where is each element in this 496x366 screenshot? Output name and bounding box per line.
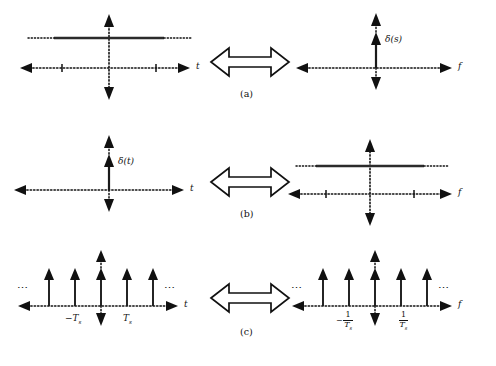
impulse-arrowhead xyxy=(148,268,158,280)
axis-label-time: t xyxy=(196,62,200,71)
impulse-arrowhead xyxy=(344,268,354,280)
panel-b-time-domain: δ(t) t xyxy=(6,122,216,244)
impulse-arrowhead xyxy=(70,268,80,280)
axis-arrow-right xyxy=(166,301,178,311)
panel-c-frequency-domain: ⋯ ⋯ − 1 Ts 1 Ts f xyxy=(280,244,490,366)
ellipsis-left: ⋯ xyxy=(17,282,29,295)
figure-row-b: δ(t) t (b) f xyxy=(0,122,496,244)
fraction-denominator-sub: s xyxy=(405,325,408,331)
tick-label-negative-Ts: −Ts xyxy=(65,314,81,325)
axis-label-frequency: f xyxy=(458,188,461,197)
ellipsis-right: ⋯ xyxy=(164,282,176,295)
panel-tag-b: (b) xyxy=(240,208,254,219)
axis-arrow-right xyxy=(440,63,452,73)
axis-arrow-up xyxy=(365,139,375,152)
axis-label-frequency: f xyxy=(458,300,461,309)
axis-label-time: t xyxy=(184,300,188,309)
axis-arrow-down xyxy=(96,313,106,326)
fraction-stack: 1 Ts xyxy=(399,311,409,331)
plot-b-time xyxy=(6,122,216,244)
fraction-stack: 1 Ts xyxy=(343,311,353,331)
tick-label-negative-inverse-Ts: − 1 Ts xyxy=(336,311,353,331)
axis-arrow-left xyxy=(20,63,32,73)
panel-tag-a: (a) xyxy=(240,88,253,99)
fraction-numerator: 1 xyxy=(345,311,352,319)
tick-label-positive-Ts: Ts xyxy=(123,314,132,325)
figure-row-c: ⋯ ⋯ −Ts Ts t (c) xyxy=(0,244,496,366)
panel-c-time-domain: ⋯ ⋯ −Ts Ts t xyxy=(6,244,216,366)
axis-label-time: t xyxy=(190,184,194,193)
axis-arrow-left xyxy=(18,301,30,311)
tick-label-negative-sub: s xyxy=(79,319,82,325)
impulse-label-delta-s: δ(s) xyxy=(385,35,402,44)
axis-arrow-up xyxy=(96,250,106,262)
axis-arrow-up xyxy=(370,250,380,262)
impulse-arrowhead xyxy=(318,268,328,280)
impulse-arrowhead xyxy=(371,32,381,45)
ellipsis-right: ⋯ xyxy=(438,282,450,295)
axis-arrow-right xyxy=(172,185,184,195)
ellipsis-left: ⋯ xyxy=(291,282,303,295)
tick-label-positive-inverse-Ts: 1 Ts xyxy=(398,311,408,331)
impulse-arrowhead-center xyxy=(96,268,106,280)
impulse-arrowhead xyxy=(122,268,132,280)
fraction-denominator-sub: s xyxy=(350,325,353,331)
impulse-arrowhead xyxy=(422,268,432,280)
axis-arrow-up xyxy=(104,14,114,27)
axis-arrow-down xyxy=(104,87,114,100)
axis-arrow-left xyxy=(296,63,308,73)
axis-arrow-down xyxy=(365,213,375,226)
axis-label-frequency: f xyxy=(458,62,461,71)
axis-arrow-down xyxy=(371,77,381,90)
tick-label-positive-sub: s xyxy=(129,319,132,325)
axis-arrow-left xyxy=(292,301,304,311)
panel-b-frequency-domain: f xyxy=(280,122,490,244)
panel-a-time-domain: t xyxy=(6,0,216,122)
transform-pair-figure: t (a) δ(s) xyxy=(0,0,496,366)
impulse-arrowhead xyxy=(396,268,406,280)
axis-arrow-down xyxy=(104,199,114,212)
tick-label-negative-text: −T xyxy=(65,313,79,323)
axis-arrow-up xyxy=(371,13,381,26)
axis-arrow-right xyxy=(178,63,190,73)
fraction-sign: − xyxy=(336,317,343,325)
plot-a-time xyxy=(6,0,216,122)
impulse-arrowhead xyxy=(44,268,54,280)
axis-arrow-right xyxy=(440,189,452,199)
fraction-denominator: Ts xyxy=(343,321,353,331)
fraction-denominator: Ts xyxy=(399,321,409,331)
impulse-arrowhead xyxy=(104,154,114,167)
axis-arrow-down xyxy=(370,313,380,326)
axis-arrow-left xyxy=(288,189,300,199)
panel-tag-c: (c) xyxy=(240,326,253,337)
impulse-train xyxy=(318,250,432,306)
impulse-arrowhead-center xyxy=(370,268,380,280)
plot-b-frequency xyxy=(280,122,490,244)
axis-arrow-up xyxy=(104,135,114,148)
fraction-numerator: 1 xyxy=(400,311,407,319)
panel-a-frequency-domain: δ(s) f xyxy=(280,0,490,122)
figure-row-a: t (a) δ(s) xyxy=(0,0,496,122)
axis-arrow-right xyxy=(440,301,452,311)
axis-arrow-left xyxy=(14,185,26,195)
impulse-train xyxy=(44,250,158,306)
impulse-label-delta-t: δ(t) xyxy=(118,157,134,166)
